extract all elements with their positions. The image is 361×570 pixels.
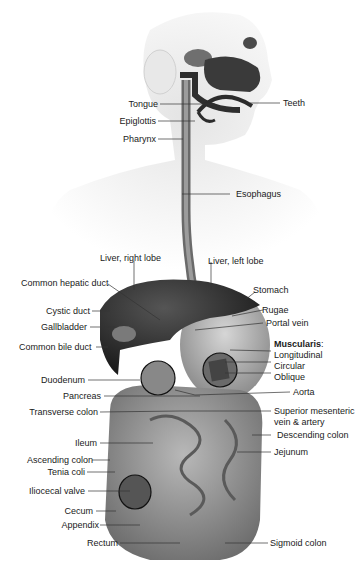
label-superior-mesenteric: Superior mesenteric [274, 406, 355, 416]
label-transverse-colon: Transverse colon [20, 407, 98, 417]
label-gallbladder: Gallbladder [20, 322, 87, 332]
label-teeth: Teeth [283, 98, 305, 108]
label-pharynx: Pharynx [100, 134, 156, 144]
label-oblique: Oblique [274, 372, 305, 382]
label-rectum: Rectum [20, 538, 118, 548]
digestive-system-diagram: Tongue Teeth Epiglottis Pharynx Esophagu… [0, 0, 361, 570]
label-circular: Circular [274, 361, 305, 371]
label-longitudinal: Longitudinal [274, 350, 323, 360]
label-jejunum: Jejunum [274, 447, 308, 457]
label-sigmoid-colon: Sigmoid colon [270, 538, 327, 548]
label-esophagus: Esophagus [236, 189, 281, 199]
label-tenia-coli: Tenia coli [20, 467, 85, 477]
label-liver-right-lobe: Liver, right lobe [100, 253, 161, 263]
label-ascending-colon: Ascending colon [27, 455, 93, 465]
label-ileum: Ileum [20, 438, 97, 448]
label-stomach: Stomach [253, 285, 289, 295]
label-liver-left-lobe: Liver, left lobe [208, 256, 264, 266]
duodenum-inset [141, 361, 175, 395]
label-duodenum: Duodenum [20, 375, 85, 385]
gallbladder-shape [112, 326, 136, 342]
label-common-hepatic-duct: Common hepatic duct [21, 278, 109, 288]
label-common-bile-duct: Common bile duct [19, 342, 92, 352]
label-cecum: Cecum [20, 506, 93, 516]
muscularis-heading: Muscularis [274, 339, 321, 349]
label-tongue: Tongue [100, 99, 158, 109]
label-aorta: Aorta [293, 387, 315, 397]
label-descending-colon: Descending colon [277, 430, 349, 440]
label-appendix: Appendix [20, 520, 99, 530]
label-rugae: Rugae [262, 305, 289, 315]
label-epiglottis: Epiglottis [100, 116, 156, 126]
label-portal-vein: Portal vein [266, 318, 309, 328]
label-muscularis: Muscularis: [274, 339, 324, 349]
label-cystic-duct: Cystic duct [20, 306, 90, 316]
label-iliocecal-valve: Iliocecal valve [29, 486, 85, 496]
label-pancreas: Pancreas [20, 391, 101, 401]
label-vein-artery: vein & artery [274, 417, 325, 427]
